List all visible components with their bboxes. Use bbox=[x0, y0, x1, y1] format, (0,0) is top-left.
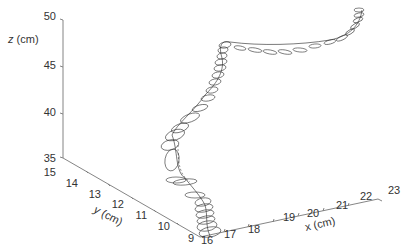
uncertainty-ellipse bbox=[248, 47, 262, 53]
uncertainty-ellipse bbox=[166, 177, 186, 183]
y-tick-15: 15 bbox=[44, 166, 56, 178]
z-tick-35: 35 bbox=[44, 152, 56, 164]
y-tick-9: 9 bbox=[188, 232, 194, 244]
trajectory-3d-plot: 50 45 40 35 z (cm) 15 14 13 12 11 10 9 y… bbox=[0, 0, 405, 249]
uncertainty-ellipse bbox=[234, 45, 247, 51]
x-tick-19: 19 bbox=[283, 211, 295, 223]
x-tick-21: 21 bbox=[336, 199, 348, 211]
uncertainty-ellipse bbox=[209, 78, 222, 86]
y-tick-14: 14 bbox=[66, 177, 78, 189]
uncertainty-ellipse bbox=[212, 71, 225, 79]
uncertainty-ellipse bbox=[354, 8, 364, 12]
z-tick-45: 45 bbox=[44, 59, 56, 71]
y-axis: 15 14 13 12 11 10 9 y (cm) bbox=[44, 158, 200, 244]
trajectory-series bbox=[160, 8, 364, 239]
uncertainty-ellipse bbox=[198, 225, 221, 239]
x-tick-17: 17 bbox=[224, 228, 236, 240]
uncertainty-ellipse bbox=[163, 148, 181, 172]
x-tick-18: 18 bbox=[248, 223, 260, 235]
uncertainty-ellipse bbox=[191, 103, 208, 113]
uncertainty-ellipses bbox=[160, 8, 364, 239]
uncertainty-ellipse bbox=[309, 43, 321, 48]
z-tick-40: 40 bbox=[44, 106, 56, 118]
y-tick-11: 11 bbox=[136, 209, 147, 221]
uncertainty-ellipse bbox=[263, 49, 277, 55]
z-axis-label: z (cm) bbox=[7, 33, 39, 45]
uncertainty-ellipse bbox=[354, 12, 365, 18]
uncertainty-ellipse bbox=[206, 86, 219, 94]
uncertainty-ellipse bbox=[160, 138, 180, 152]
x-axis: 16 17 18 19 20 21 22 23 x (cm) bbox=[200, 184, 400, 246]
uncertainty-ellipse bbox=[278, 49, 292, 55]
uncertainty-ellipse bbox=[324, 39, 337, 46]
uncertainty-ellipse bbox=[350, 22, 361, 30]
uncertainty-ellipse bbox=[173, 178, 197, 186]
uncertainty-ellipse bbox=[293, 47, 307, 52]
z-axis: 50 45 40 35 z (cm) bbox=[7, 10, 63, 164]
uncertainty-ellipse bbox=[195, 208, 214, 219]
x-tick-16: 16 bbox=[201, 234, 213, 246]
y-tick-13: 13 bbox=[89, 188, 101, 200]
uncertainty-ellipse bbox=[194, 202, 213, 213]
y-tick-12: 12 bbox=[112, 198, 124, 210]
y-tick-10: 10 bbox=[158, 220, 170, 232]
x-tick-22: 22 bbox=[360, 190, 372, 202]
x-tick-23: 23 bbox=[388, 184, 400, 196]
uncertainty-ellipse bbox=[219, 41, 232, 49]
z-tick-50: 50 bbox=[44, 10, 56, 22]
uncertainty-ellipse bbox=[185, 192, 205, 198]
uncertainty-ellipse bbox=[196, 214, 215, 225]
